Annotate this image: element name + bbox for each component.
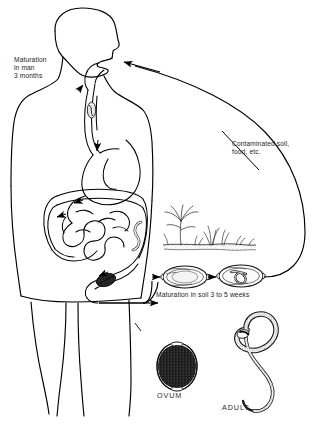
larva-in-esophagus	[87, 102, 95, 118]
soil-scene	[163, 205, 256, 250]
label-maturation-in-soil: Maturation in soil 3 to 5 weeks	[156, 291, 249, 299]
arrow-into-mouth	[124, 62, 160, 72]
label-contaminated-soil-food: Contaminated soil, food, etc.	[232, 140, 289, 156]
ovum-detail	[155, 342, 201, 392]
life-cycle-figure	[0, 0, 317, 424]
internal-flow-arrows	[57, 85, 108, 276]
tick-mark	[135, 323, 141, 331]
egg-unembryonated	[161, 266, 210, 288]
label-maturation-in-man: Maturation in man 3 months	[14, 56, 47, 81]
adult-worm-in-rectum	[95, 271, 118, 289]
label-adult: ADULT	[222, 404, 250, 412]
larva-in-colon	[133, 222, 141, 250]
adult-detail	[236, 314, 276, 411]
label-ovum: OVUM	[157, 392, 182, 400]
digestive-tract	[44, 63, 148, 303]
egg-embryonated	[217, 265, 266, 287]
